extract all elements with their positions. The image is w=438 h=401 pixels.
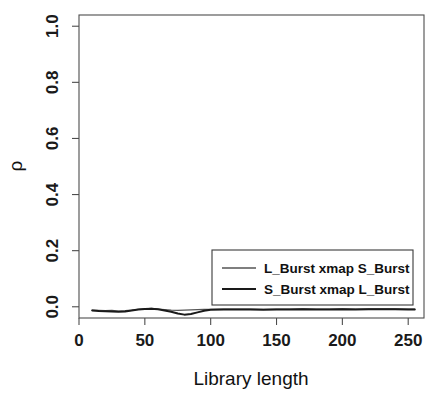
series-path-2 xyxy=(92,309,415,315)
x-axis-title: Library length xyxy=(193,368,308,389)
y-axis-title: ρ xyxy=(5,160,26,171)
chart-legend: L_Burst xmap S_Burst S_Burst xmap L_Burs… xyxy=(212,250,413,305)
data-series-group xyxy=(92,308,415,314)
y-axis-tick-labels: 0.00.20.40.60.81.0 xyxy=(43,14,62,318)
x-tick-label-4: 200 xyxy=(328,331,356,350)
y-tick-label-5: 1.0 xyxy=(43,14,62,38)
x-tick-label-3: 150 xyxy=(262,331,290,350)
ecmm-convergence-plot: 0.00.20.40.60.81.0 050100150200250 L_Bur… xyxy=(0,0,438,401)
y-axis-ticks xyxy=(72,26,79,307)
x-tick-label-0: 0 xyxy=(74,331,83,350)
y-tick-label-1: 0.2 xyxy=(43,239,62,263)
x-axis-ticks xyxy=(79,318,408,325)
x-axis-tick-labels: 050100150200250 xyxy=(74,331,422,350)
legend-label-series-2: S_Burst xmap L_Burst xyxy=(264,282,410,297)
x-tick-label-2: 100 xyxy=(196,331,224,350)
y-tick-label-4: 0.8 xyxy=(43,71,62,95)
x-tick-label-5: 250 xyxy=(394,331,422,350)
legend-label-series-1: L_Burst xmap S_Burst xyxy=(264,261,410,276)
y-tick-label-0: 0.0 xyxy=(43,295,62,319)
x-tick-label-1: 50 xyxy=(135,331,154,350)
y-tick-label-3: 0.6 xyxy=(43,127,62,151)
y-tick-label-2: 0.4 xyxy=(43,182,62,206)
chart-container: 0.00.20.40.60.81.0 050100150200250 L_Bur… xyxy=(0,0,438,401)
